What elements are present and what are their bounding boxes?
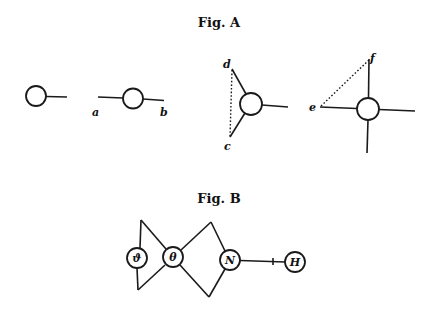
bond-line-right (262, 105, 288, 107)
label-d: d (223, 58, 231, 71)
label-c: c (224, 140, 231, 153)
label-b: b (160, 106, 168, 119)
edge (211, 222, 225, 251)
bond-line-a (98, 97, 123, 98)
atom-circle (357, 98, 379, 120)
bond-line-up (369, 59, 370, 98)
bond-line-b (143, 99, 164, 101)
edge-n-h (240, 261, 285, 263)
node-label-theta: θ (169, 251, 177, 264)
edge (181, 222, 211, 250)
bond-line (46, 97, 67, 98)
edge (137, 268, 138, 290)
fig-b-title: Fig. B (197, 191, 240, 206)
label-e: e (309, 101, 316, 114)
fig-a-two-bond: a b (92, 89, 168, 120)
edge (141, 220, 166, 249)
bond-line-left (320, 107, 357, 109)
fig-b-structure: ϑ θ N H (127, 220, 305, 297)
diagram-canvas: Fig. A a b d c e f Fig. B (0, 0, 438, 314)
fig-a-four-bond: e f (309, 52, 415, 153)
fig-a-three-bond: d c (223, 58, 288, 153)
node-label-h: H (289, 256, 301, 269)
bond-line-c (230, 113, 245, 137)
label-f: f (369, 52, 377, 65)
edge (140, 220, 141, 248)
dotted-line-dc (230, 70, 232, 137)
bond-line-down (367, 120, 368, 153)
node-label-vartheta: ϑ (132, 252, 141, 265)
fig-a-title: Fig. A (198, 15, 241, 30)
bond-line-d (232, 69, 246, 94)
atom-circle (123, 89, 143, 109)
edge (138, 265, 165, 290)
label-a: a (92, 106, 99, 119)
edge (180, 265, 209, 297)
node-label-n: N (224, 254, 236, 267)
atom-circle (240, 93, 262, 115)
atom-circle (26, 86, 46, 106)
bond-line-right (379, 110, 415, 112)
fig-a-single-bond (26, 86, 67, 106)
edge (209, 269, 225, 297)
